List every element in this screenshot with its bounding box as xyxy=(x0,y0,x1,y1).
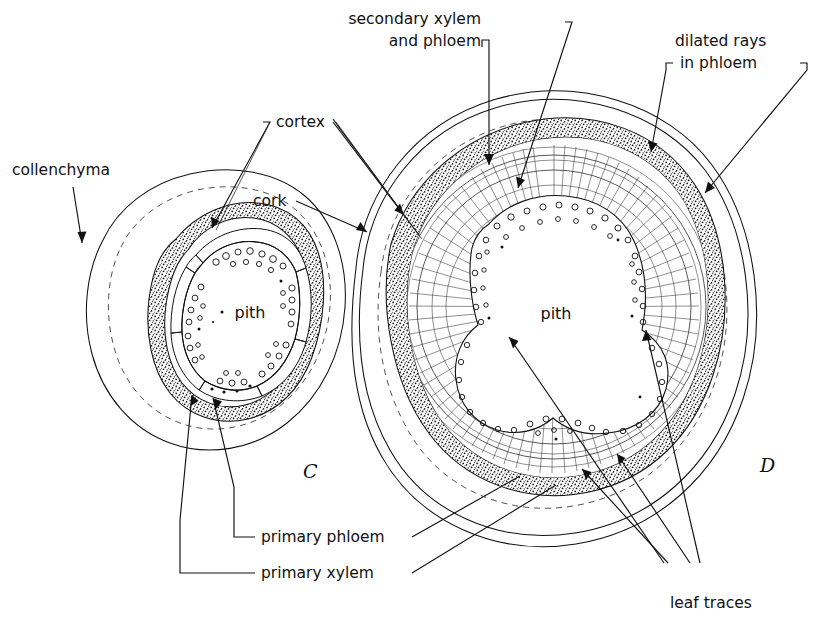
figure-canvas: pith C xyxy=(0,0,829,627)
leader-dilated-1 xyxy=(651,63,673,152)
leader-dilated-2 xyxy=(705,63,807,193)
leader-primary-phloem-d xyxy=(412,476,520,537)
panel-d-pith-label: pith xyxy=(540,304,571,323)
panel-c-pith-specks xyxy=(212,311,224,324)
label-collenchyma: collenchyma xyxy=(12,161,110,179)
label-dilated-rays-line2: in phloem xyxy=(680,54,757,72)
leader-cortex-d-2b xyxy=(337,125,422,239)
label-secondary-xylem-line2: and phloem xyxy=(389,32,481,50)
label-cork: cork xyxy=(253,192,286,210)
leader-primary-xylem-d xyxy=(412,485,556,573)
label-secondary-xylem-line1: secondary xylem xyxy=(348,10,481,28)
leader-cork xyxy=(296,201,367,232)
label-primary-phloem: primary phloem xyxy=(261,528,385,546)
label-cortex: cortex xyxy=(276,113,325,131)
panel-d-drawing: pith D xyxy=(352,91,775,547)
leader-primary-xylem xyxy=(180,395,255,573)
panel-d-letter: D xyxy=(759,454,775,476)
cross-section-figure: pith C xyxy=(0,0,829,627)
panel-c-letter: C xyxy=(303,460,318,482)
arrowhead-collenchyma xyxy=(78,232,87,244)
label-leaf-traces: leaf traces xyxy=(670,594,752,612)
panel-c-phloem-dots xyxy=(198,280,283,394)
leader-leaf-trace-2 xyxy=(582,469,668,563)
label-primary-xylem: primary xylem xyxy=(261,564,374,582)
panel-c-pith-label: pith xyxy=(234,303,265,322)
label-dilated-rays-line1: dilated rays xyxy=(675,32,766,50)
